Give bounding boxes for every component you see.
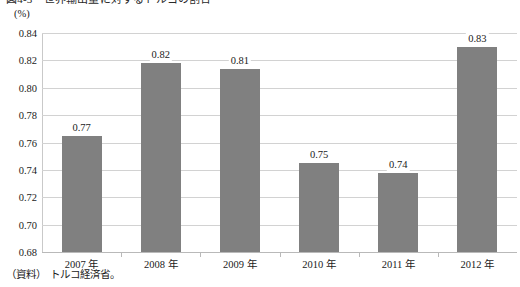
- bar-value-label: 0.75: [308, 149, 330, 161]
- y-axis-tick-label: 0.82: [19, 55, 37, 66]
- bar-value-label: 0.77: [70, 122, 92, 134]
- bar: 0.81: [220, 69, 260, 252]
- gridline: [42, 33, 517, 34]
- y-axis-tick-label: 0.72: [19, 192, 37, 203]
- bar: 0.82: [141, 63, 181, 252]
- x-axis-tick-mark: [121, 252, 122, 257]
- y-axis-unit-label: (%): [14, 8, 30, 19]
- x-axis-tick-mark: [200, 252, 201, 257]
- y-axis-tick-label: 0.74: [19, 164, 37, 175]
- source-text: トルコ経済省。: [50, 269, 120, 280]
- x-axis-tick-label: 2008 年: [144, 259, 178, 271]
- bar: 0.83: [457, 47, 497, 252]
- y-axis-tick-label: 0.68: [19, 247, 37, 258]
- source-label: （資料）: [6, 269, 46, 280]
- gridline: [42, 88, 517, 89]
- x-axis-tick-label: 2010 年: [302, 259, 336, 271]
- x-axis-tick-label: 2011 年: [382, 259, 415, 271]
- gridline: [42, 197, 517, 198]
- gridline: [42, 170, 517, 171]
- gridline: [42, 115, 517, 116]
- bar-value-label: 0.74: [387, 159, 409, 171]
- y-axis-tick-label: 0.84: [19, 28, 37, 39]
- figure-title: 図4-3 世界輸出量に対するトルコの割合: [6, 0, 212, 5]
- x-axis-tick-mark: [280, 252, 281, 257]
- bar-value-label: 0.81: [229, 55, 251, 67]
- bar: 0.75: [299, 163, 339, 252]
- gridline: [42, 225, 517, 226]
- y-axis-tick-label: 0.80: [19, 82, 37, 93]
- x-axis-tick-mark: [438, 252, 439, 257]
- chart-plot-area: 0.840.820.800.780.760.740.720.700.68 0.7…: [42, 33, 517, 252]
- gridline: [42, 143, 517, 144]
- bar: 0.77: [62, 136, 102, 252]
- x-axis-tick-label: 2012 年: [461, 259, 495, 271]
- bar-value-label: 0.83: [466, 33, 488, 45]
- bar: 0.74: [378, 173, 418, 252]
- x-axis-tick-mark: [359, 252, 360, 257]
- y-axis-tick-label: 0.70: [19, 219, 37, 230]
- source-note: （資料）トルコ経済省。: [6, 269, 120, 281]
- y-axis-tick-label: 0.76: [19, 137, 37, 148]
- y-axis-tick-label: 0.78: [19, 110, 37, 121]
- bar-value-label: 0.82: [150, 49, 172, 61]
- x-axis-tick-label: 2009 年: [223, 259, 257, 271]
- gridline: [42, 60, 517, 61]
